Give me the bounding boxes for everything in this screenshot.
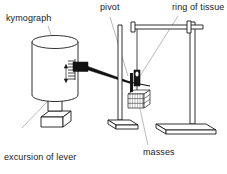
writing-lever [73, 62, 132, 84]
kymograph-drum [32, 36, 78, 102]
label-excursion-line-1: excursion of lever [4, 152, 76, 163]
right-stand [156, 22, 216, 134]
apparatus-diagram: kymograph pivot ring of tissue masses ex… [0, 0, 227, 174]
label-excursion: excursion of lever corresponding to init… [4, 131, 76, 174]
suspension-assembly [128, 29, 150, 108]
left-stand-base [108, 120, 138, 129]
label-masses: masses [143, 147, 175, 158]
label-pivot: pivot [100, 2, 120, 13]
label-ring-of-tissue: ring of tissue [172, 2, 224, 13]
right-stand-base [156, 124, 216, 134]
kymograph-assembly [32, 36, 78, 128]
mass-stack [128, 90, 150, 108]
label-kymograph: kymograph [6, 13, 51, 24]
tissue-ring-highlight [135, 71, 138, 76]
kymograph-base [41, 111, 71, 127]
